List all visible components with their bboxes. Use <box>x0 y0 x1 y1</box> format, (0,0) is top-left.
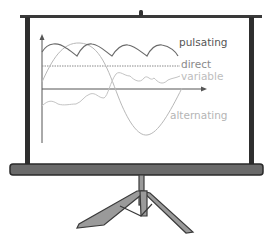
variable-label: variable <box>181 71 223 82</box>
direct-label: direct <box>181 59 211 70</box>
tripod-stand <box>77 175 193 233</box>
pulsating-label: pulsating <box>179 37 228 48</box>
screen-top-bar <box>20 10 262 18</box>
screen-bottom-case <box>10 164 263 175</box>
diagram-canvas <box>0 0 278 245</box>
projector-screen-diagram: pulsating direct variable alternating <box>0 0 278 245</box>
alternating-label: alternating <box>170 110 228 121</box>
